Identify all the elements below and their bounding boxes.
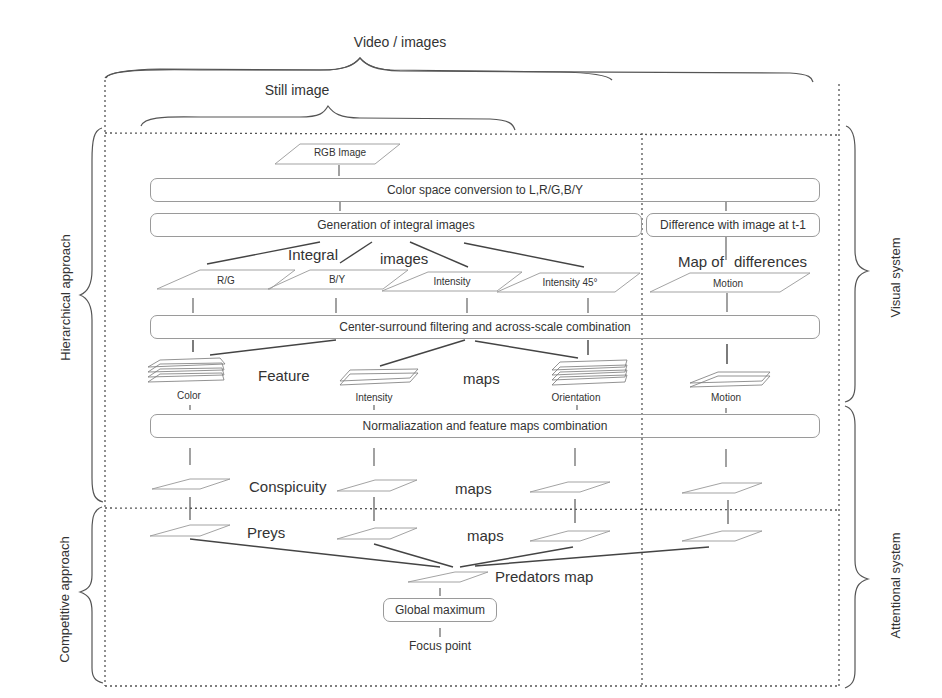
feature-stack-orientation (552, 360, 627, 385)
brace-video-images (106, 58, 612, 80)
process-normalization: Normaliazation and feature maps combinat… (150, 414, 820, 438)
brace-hierarchical-path (80, 128, 103, 502)
label-competitive-approach: Competitive approach (57, 530, 72, 670)
diagram-canvas (0, 0, 942, 698)
label-rgb-image: RGB Image (314, 147, 366, 158)
label-predators-map: Predators map (495, 568, 593, 585)
label-feature: Feature (258, 367, 310, 384)
integral-image-rg: R/G (217, 275, 235, 286)
label-attentional-system: Attentional system (888, 511, 903, 661)
process-center-surround-text: Center-surround filtering and across-sca… (339, 320, 630, 334)
feature-map-motion: Motion (711, 392, 741, 403)
integral-image-intensity: Intensity (433, 276, 470, 287)
feature-map-orientation: Orientation (552, 392, 601, 403)
label-conspicuity: Conspicuity (249, 478, 327, 495)
process-global-maximum-text: Global maximum (395, 603, 485, 617)
label-differences: differences (734, 253, 807, 270)
process-global-maximum: Global maximum (383, 598, 497, 622)
process-difference-previous-image: Difference with image at t-1 (646, 213, 820, 237)
brace-video-images-path (105, 58, 813, 82)
label-preys: Preys (247, 524, 285, 541)
label-visual-system: Visual system (888, 218, 903, 338)
label-feature-maps: maps (463, 370, 500, 387)
feature-map-color: Color (177, 390, 201, 401)
feature-stack-color (148, 358, 225, 382)
process-difference-previous-image-text: Difference with image at t-1 (660, 218, 806, 232)
brace-attentional-path (845, 406, 868, 688)
process-normalization-text: Normaliazation and feature maps combinat… (363, 419, 608, 433)
label-conspicuity-maps: maps (455, 480, 492, 497)
integral-image-by: B/Y (329, 274, 345, 285)
label-still-image: Still image (265, 82, 330, 98)
feature-map-intensity: Intensity (355, 392, 392, 403)
label-map-of: Map of (678, 253, 724, 270)
process-generate-integral-images-text: Generation of integral images (317, 218, 474, 232)
label-preys-maps: maps (467, 527, 504, 544)
brace-visual-path (845, 126, 868, 402)
process-color-space-conversion-text: Color space conversion to L,R/G,B/Y (387, 183, 583, 197)
label-hierarchical-approach: Hierarchical approach (58, 228, 73, 368)
label-video-images: Video / images (354, 34, 446, 50)
process-generate-integral-images: Generation of integral images (150, 213, 642, 237)
brace-competitive-path (80, 507, 103, 683)
process-color-space-conversion: Color space conversion to L,R/G,B/Y (150, 178, 820, 202)
brace-still-image-path (141, 106, 515, 130)
motion-input-map: Motion (713, 278, 743, 289)
label-images: images (380, 250, 428, 267)
label-integral: Integral (288, 246, 338, 263)
feature-stack-intensity (340, 369, 418, 385)
process-center-surround: Center-surround filtering and across-sca… (150, 315, 820, 339)
label-focus-point: Focus point (409, 639, 471, 653)
integral-image-intensity-45: Intensity 45° (542, 277, 597, 288)
feature-stack-motion (690, 372, 770, 387)
